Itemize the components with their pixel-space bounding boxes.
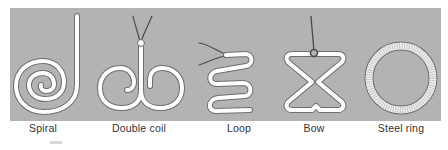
steel-ring-device-icon [369,46,433,110]
label-loop: Loop [227,122,251,134]
spiral-device-icon [16,16,77,112]
label-spiral: Spiral [29,122,57,134]
label-double-coil: Double coil [112,122,166,134]
label-bow: Bow [303,122,324,134]
cropped-caption-fragment [50,141,62,144]
double-coil-device-icon [100,16,182,108]
label-steel-ring: Steel ring [378,122,424,134]
loop-device-icon [199,43,252,111]
bow-device-icon [287,16,344,110]
